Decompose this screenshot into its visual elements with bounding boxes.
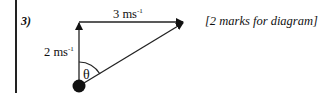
angle-label: θ [83,67,90,82]
vector-diagram: 3 ms-1 2 ms-1 θ [0,0,328,93]
horizontal-vector-label: 3 ms-1 [113,7,143,21]
vertical-vector-label: 2 ms-1 [44,45,74,59]
resultant-vector-arrow [79,23,183,86]
